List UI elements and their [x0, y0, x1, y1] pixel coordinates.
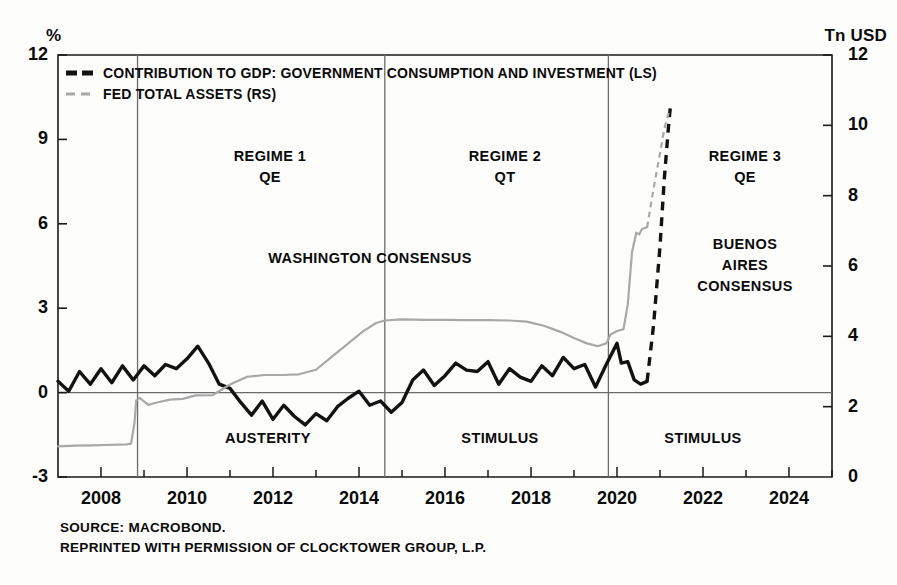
source-note: SOURCE: MACROBOND.REPRINTED WITH PERMISS…	[60, 518, 486, 559]
right-axis-tick-label: 12	[848, 44, 888, 65]
annotation-stimulus-3: STIMULUS	[664, 428, 741, 449]
x-axis-tick-label: 2022	[668, 488, 738, 509]
legend-item-1[interactable]: CONTRIBUTION TO GDP: GOVERNMENT CONSUMPT…	[66, 62, 657, 83]
left-axis-tick-label: 6	[8, 213, 48, 234]
x-axis-tick-label: 2008	[66, 488, 136, 509]
right-axis-tick-label: 8	[848, 185, 888, 206]
legend-swatch-icon	[66, 88, 96, 100]
x-axis-tick-label: 2024	[754, 488, 824, 509]
left-axis-tick-label: 12	[8, 44, 48, 65]
right-axis-tick-label: 10	[848, 114, 888, 135]
annotation-regime-3: REGIME 3 QE	[709, 146, 782, 188]
annotation-stimulus-2: STIMULUS	[461, 428, 538, 449]
annotation-austerity: AUSTERITY	[225, 428, 311, 449]
left-axis-tick-label: 9	[8, 128, 48, 149]
x-axis-tick-label: 2020	[582, 488, 652, 509]
right-axis-tick-label: 4	[848, 325, 888, 346]
left-axis-tick-label: 0	[8, 382, 48, 403]
series-forecast-1	[647, 103, 671, 382]
legend-label: FED TOTAL ASSETS (RS)	[103, 86, 276, 102]
right-axis-tick-label: 0	[848, 466, 888, 487]
x-axis-tick-label: 2016	[410, 488, 480, 509]
x-axis-tick-label: 2014	[324, 488, 394, 509]
annotation-regime-2: REGIME 2 QT	[469, 146, 542, 188]
series-forecast-2	[647, 113, 669, 227]
left-axis-tick-label: 3	[8, 297, 48, 318]
annotation-regime-1: REGIME 1 QE	[234, 146, 307, 188]
annotation-washington-consensus: WASHINGTON CONSENSUS	[268, 248, 472, 269]
chart-legend: CONTRIBUTION TO GDP: GOVERNMENT CONSUMPT…	[66, 62, 657, 104]
right-axis-tick-label: 2	[848, 396, 888, 417]
chart-figure: % Tn USD -303691202468101220082010201220…	[0, 0, 897, 585]
source-line-2: REPRINTED WITH PERMISSION OF CLOCKTOWER …	[60, 538, 486, 558]
annotation-buenos-aires-consensus: BUENOS AIRES CONSENSUS	[697, 234, 792, 297]
right-axis-tick-label: 6	[848, 255, 888, 276]
source-line-1: SOURCE: MACROBOND.	[60, 518, 486, 538]
x-axis-tick-label: 2018	[496, 488, 566, 509]
legend-swatch-icon	[66, 67, 96, 79]
left-axis-tick-label: -3	[8, 466, 48, 487]
series-line-1	[58, 343, 647, 425]
legend-label: CONTRIBUTION TO GDP: GOVERNMENT CONSUMPT…	[103, 65, 657, 81]
x-axis-tick-label: 2012	[238, 488, 308, 509]
x-axis-tick-label: 2010	[152, 488, 222, 509]
legend-item-2[interactable]: FED TOTAL ASSETS (RS)	[66, 83, 657, 104]
